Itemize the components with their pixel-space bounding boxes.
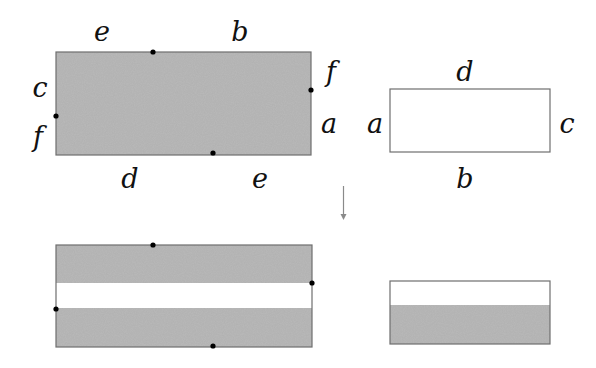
label-top-d: d bbox=[456, 56, 473, 87]
bottom-left-rect-bottom-dot bbox=[210, 343, 215, 348]
top-left-rect-top-dot bbox=[150, 49, 155, 54]
top-right-rectangle bbox=[390, 89, 550, 152]
bottom-left-top-gray-band bbox=[56, 245, 312, 283]
bottom-right-bottom-gray-band bbox=[390, 305, 550, 344]
label-bottom-b: b bbox=[456, 163, 473, 194]
top-left-rect-left-dot bbox=[53, 113, 58, 118]
label-top-right-b: b bbox=[231, 16, 248, 47]
top-left-rectangle-group: e b c f f a d e bbox=[31, 16, 340, 194]
bottom-left-rect-top-dot bbox=[150, 242, 155, 247]
bottom-left-middle-white-band bbox=[56, 283, 312, 308]
bottom-right-rectangle-group bbox=[390, 281, 550, 344]
label-bottom-right-e: e bbox=[252, 163, 268, 194]
label-left-upper-c: c bbox=[32, 72, 47, 103]
bottom-left-rectangle-group bbox=[53, 242, 314, 348]
label-right-c: c bbox=[559, 108, 574, 139]
label-top-left-e: e bbox=[94, 16, 110, 47]
bottom-left-rect-left-dot bbox=[53, 306, 58, 311]
label-right-upper-f: f bbox=[324, 56, 340, 87]
bottom-left-bottom-gray-band bbox=[56, 308, 312, 347]
top-left-rect-bottom-dot bbox=[210, 150, 215, 155]
bottom-right-top-white-band bbox=[390, 281, 550, 305]
label-left-a: a bbox=[367, 108, 383, 139]
cut-and-paste-diagram: e b c f f a d e d a c b bbox=[0, 0, 596, 368]
label-left-lower-f: f bbox=[31, 121, 47, 152]
label-right-lower-a: a bbox=[321, 108, 337, 139]
top-left-rect-right-dot bbox=[308, 87, 313, 92]
top-left-rectangle bbox=[56, 52, 311, 155]
top-right-rectangle-group: d a c b bbox=[367, 56, 575, 194]
down-arrow-icon bbox=[341, 186, 347, 220]
bottom-left-rect-right-dot bbox=[309, 280, 314, 285]
label-bottom-left-d: d bbox=[121, 163, 138, 194]
